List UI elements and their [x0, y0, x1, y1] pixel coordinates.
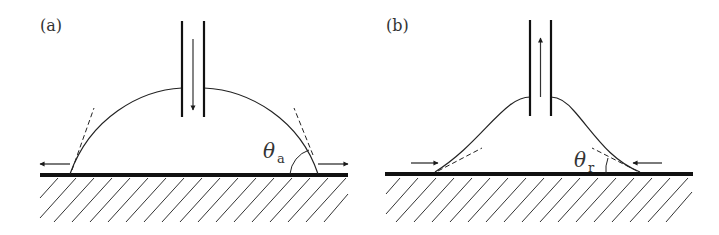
tangent-left-b — [438, 148, 482, 171]
panel-b-label: (b) — [386, 16, 409, 35]
tangent-left-a — [72, 108, 94, 170]
contact-angle-diagram: (a) θ — [0, 0, 719, 235]
panel-a-label: (a) — [40, 16, 62, 35]
theta-a-subscript: a — [277, 151, 285, 166]
droplet-b — [435, 97, 640, 172]
panel-a: (a) θ — [40, 16, 348, 222]
angle-arc-b — [606, 158, 608, 174]
theta-a-symbol: θ — [263, 139, 275, 163]
panel-b: (b) θ r — [385, 16, 693, 222]
substrate-hatching-b — [386, 178, 692, 222]
theta-r-subscript: r — [588, 160, 595, 175]
angle-arc-a — [290, 150, 309, 174]
substrate-hatching-a — [40, 178, 348, 222]
theta-r-symbol: θ — [574, 148, 586, 172]
tangent-right-a — [294, 108, 313, 155]
